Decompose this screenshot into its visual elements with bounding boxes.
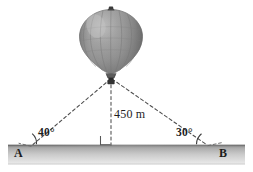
right-angle-marker (101, 136, 111, 145)
altitude-label: 450 m (114, 108, 145, 120)
sight-line-to-a (19, 79, 111, 146)
balloon-trigonometry-figure: 450 m 40° 30° A B (0, 0, 253, 172)
ground-band (8, 145, 245, 165)
figure-canvas (0, 0, 253, 172)
angle-arc-a (32, 134, 36, 145)
point-label-a: A (14, 147, 23, 159)
point-label-b: B (219, 147, 227, 159)
hot-air-balloon (80, 7, 143, 85)
angle-label-a: 40° (38, 127, 55, 139)
angle-label-b: 30° (176, 127, 193, 139)
